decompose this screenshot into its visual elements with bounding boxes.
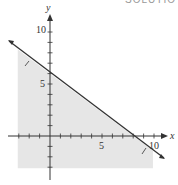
y-tick-label-10: 10	[36, 24, 46, 35]
y-tick-label-5: 5	[40, 78, 45, 89]
x-axis-arrow-icon	[161, 133, 168, 139]
x-axis-label: x	[169, 130, 175, 141]
x-tick-label-10: 10	[149, 140, 159, 151]
x-tick-label-5: 5	[99, 140, 104, 151]
shaded-region	[18, 49, 153, 168]
y-axis-arrow-icon	[47, 14, 53, 21]
y-axis-label: y	[45, 2, 51, 13]
inequality-graph: y x 10 5 5 10	[0, 0, 178, 185]
